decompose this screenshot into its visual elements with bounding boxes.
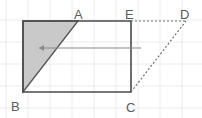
vertex-label-B: B (11, 99, 20, 114)
vertex-label-E: E (125, 7, 134, 22)
geometry-figure: A B C D E (0, 0, 202, 118)
figure-canvas: A B C D E (0, 0, 202, 118)
vertex-label-A: A (74, 7, 83, 22)
vertex-label-D: D (180, 7, 189, 22)
vertex-label-C: C (126, 100, 135, 115)
